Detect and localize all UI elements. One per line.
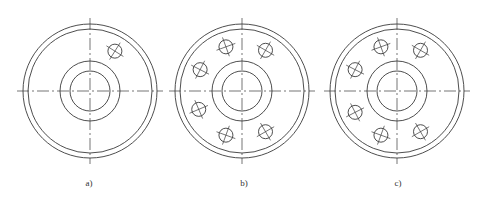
flange-diagram-canvas xyxy=(0,0,484,205)
flange-figure-b xyxy=(169,18,315,164)
figure-label-b: b) xyxy=(240,178,248,188)
bolt-hole-3 xyxy=(191,61,209,79)
bolt-hole-1 xyxy=(106,43,123,60)
figure-label-c: c) xyxy=(395,178,402,188)
bolt-hole-3 xyxy=(346,61,364,79)
flange-figure-a xyxy=(17,18,163,164)
bolt-hole-6 xyxy=(412,123,429,140)
figure-label-a: a) xyxy=(86,178,93,188)
bolt-hole-2 xyxy=(217,37,236,56)
bolt-hole-1 xyxy=(257,42,274,59)
flange-figure-c xyxy=(324,18,470,164)
bolt-hole-5 xyxy=(217,126,236,145)
bolt-hole-1 xyxy=(412,42,429,59)
bolt-hole-5 xyxy=(372,126,391,145)
bolt-hole-4 xyxy=(190,100,208,118)
bolt-hole-4 xyxy=(346,103,364,121)
bolt-hole-2 xyxy=(372,37,391,56)
bolt-hole-6 xyxy=(257,123,274,140)
